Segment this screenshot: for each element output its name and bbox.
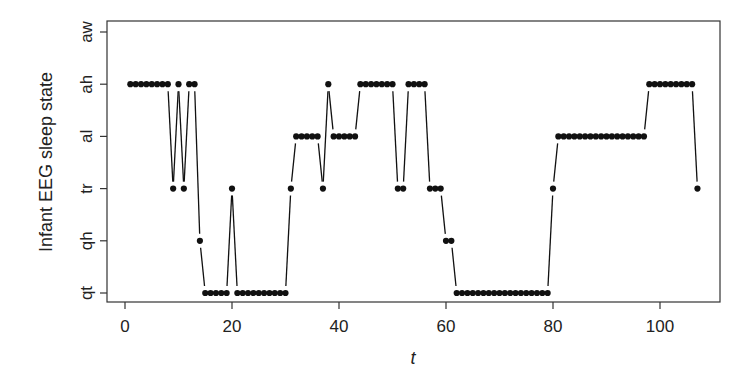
- series-segment: [184, 91, 189, 181]
- data-point: [684, 81, 690, 87]
- x-axis-title: t: [410, 348, 416, 368]
- data-point: [646, 81, 652, 87]
- data-point: [293, 133, 299, 139]
- data-point: [603, 133, 609, 139]
- data-point: [405, 81, 411, 87]
- series-segment: [318, 143, 322, 181]
- y-tick-label: al: [77, 130, 96, 143]
- data-point: [191, 81, 197, 87]
- data-point: [582, 133, 588, 139]
- data-point: [395, 186, 401, 192]
- y-tick-label: tr: [77, 183, 96, 194]
- sleep-state-chart: qtqhtralahaw 020406080100 t Infant EEG s…: [0, 0, 755, 382]
- series-segment: [201, 248, 205, 286]
- data-point: [154, 81, 160, 87]
- data-point: [678, 81, 684, 87]
- series-segment: [232, 196, 237, 286]
- data-point: [459, 290, 465, 296]
- data-point: [443, 238, 449, 244]
- series-segment: [179, 91, 184, 181]
- series-segment: [329, 91, 333, 129]
- data-point: [625, 133, 631, 139]
- series-segment: [168, 91, 173, 181]
- data-point: [159, 81, 165, 87]
- series-segment: [323, 91, 328, 181]
- data-point: [416, 81, 422, 87]
- series-segment: [554, 143, 558, 181]
- data-point: [320, 186, 326, 192]
- data-point: [411, 81, 417, 87]
- data-point: [448, 238, 454, 244]
- data-point: [523, 290, 529, 296]
- y-axis: qtqhtralahaw: [77, 20, 107, 300]
- series-segment: [452, 248, 456, 286]
- data-point: [218, 290, 224, 296]
- data-point: [539, 290, 545, 296]
- data-point: [277, 290, 283, 296]
- data-point: [347, 133, 353, 139]
- series-segment: [645, 91, 649, 129]
- data-point: [432, 186, 438, 192]
- series-segment: [292, 143, 296, 181]
- data-point: [561, 133, 567, 139]
- data-point: [288, 186, 294, 192]
- data-point: [224, 290, 230, 296]
- data-point: [266, 290, 272, 296]
- data-point: [400, 186, 406, 192]
- data-point: [438, 186, 444, 192]
- data-point: [261, 290, 267, 296]
- series-segment: [425, 91, 430, 181]
- data-point: [657, 81, 663, 87]
- data-point: [363, 81, 369, 87]
- series-points: [127, 81, 700, 296]
- data-point: [598, 133, 604, 139]
- data-point: [545, 290, 551, 296]
- data-point: [630, 133, 636, 139]
- data-point: [341, 133, 347, 139]
- data-point: [379, 81, 385, 87]
- data-point: [304, 133, 310, 139]
- data-point: [143, 81, 149, 87]
- data-point: [186, 81, 192, 87]
- data-point: [609, 133, 615, 139]
- plot-frame: [107, 21, 720, 302]
- series-segment: [393, 91, 398, 181]
- y-tick-label: qh: [77, 231, 96, 250]
- data-point: [181, 186, 187, 192]
- data-point: [427, 186, 433, 192]
- data-point: [315, 133, 321, 139]
- data-point: [641, 133, 647, 139]
- y-tick-label: aw: [77, 20, 96, 42]
- data-point: [368, 81, 374, 87]
- data-point: [480, 290, 486, 296]
- data-point: [165, 81, 171, 87]
- x-tick-label: 20: [223, 317, 242, 336]
- y-tick-label: ah: [77, 75, 96, 94]
- y-tick-label: qt: [77, 286, 96, 300]
- data-point: [587, 133, 593, 139]
- data-point: [197, 238, 203, 244]
- data-point: [694, 186, 700, 192]
- data-point: [593, 133, 599, 139]
- data-point: [668, 81, 674, 87]
- data-point: [240, 290, 246, 296]
- data-point: [250, 290, 256, 296]
- data-point: [636, 133, 642, 139]
- data-point: [502, 290, 508, 296]
- data-point: [619, 133, 625, 139]
- data-point: [534, 290, 540, 296]
- data-point: [245, 290, 251, 296]
- series-segment: [195, 91, 200, 234]
- data-point: [614, 133, 620, 139]
- x-tick-label: 40: [330, 317, 349, 336]
- data-point: [272, 290, 278, 296]
- x-tick-label: 100: [646, 317, 674, 336]
- data-point: [652, 81, 658, 87]
- data-point: [496, 290, 502, 296]
- series-segment: [404, 91, 409, 181]
- data-point: [352, 133, 358, 139]
- series-segment: [174, 91, 179, 181]
- data-point: [555, 133, 561, 139]
- data-point: [175, 81, 181, 87]
- data-point: [336, 133, 342, 139]
